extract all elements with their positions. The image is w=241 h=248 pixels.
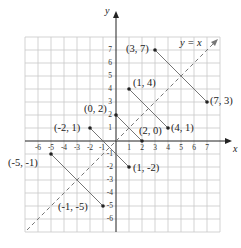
label-1-4: (1, 4) [133, 77, 156, 89]
y-axis-arrow-icon [113, 11, 119, 18]
point-3-7 [153, 48, 157, 52]
label-1-neg2: (1, -2) [133, 162, 160, 174]
label-7-3: (7, 3) [210, 95, 233, 107]
y-tick-labels: 7 6 5 4 3 2 1 -1 -2 -3 -4 -5 -6 [107, 45, 113, 223]
label-2-0: (2, 0) [139, 125, 162, 137]
svg-text:2: 2 [108, 110, 112, 119]
svg-text:-4: -4 [61, 143, 67, 152]
svg-text:4: 4 [108, 84, 112, 93]
svg-text:7: 7 [108, 45, 112, 54]
svg-text:5: 5 [108, 71, 112, 80]
svg-text:-2: -2 [107, 162, 113, 171]
svg-text:4: 4 [166, 143, 170, 152]
svg-text:1: 1 [108, 123, 112, 132]
label-3-7: (3, 7) [126, 43, 149, 55]
point-0-2 [114, 113, 118, 117]
point-neg2-1 [88, 126, 92, 130]
coordinate-plane: x y -6 -5 -4 -3 -2 -1 1 2 3 4 5 6 7 7 6 … [0, 0, 241, 248]
line-y-equals-x [27, 43, 214, 230]
svg-text:-2: -2 [87, 143, 93, 152]
svg-text:5: 5 [179, 143, 183, 152]
x-tick-labels: -6 -5 -4 -3 -2 -1 1 2 3 4 5 6 7 [35, 143, 209, 152]
svg-text:7: 7 [205, 143, 209, 152]
svg-text:3: 3 [108, 97, 112, 106]
svg-text:-6: -6 [107, 214, 113, 223]
svg-text:-6: -6 [35, 143, 41, 152]
x-axis-arrow-icon [225, 138, 232, 144]
point-7-3 [205, 100, 209, 104]
label-4-1: (4, 1) [171, 122, 194, 134]
label-neg1-neg5: (-1, -5) [58, 201, 88, 213]
svg-text:-3: -3 [74, 143, 80, 152]
svg-text:1: 1 [127, 143, 131, 152]
svg-text:-5: -5 [107, 201, 113, 210]
label-0-2: (0, 2) [84, 103, 107, 115]
point-1-4 [127, 87, 131, 91]
point-neg1-neg5 [101, 204, 105, 208]
svg-text:-4: -4 [107, 188, 113, 197]
label-neg5-neg1: (-5, -1) [8, 157, 38, 169]
svg-text:6: 6 [192, 143, 196, 152]
y-axis-label: y [104, 5, 110, 16]
point-2-0 [140, 139, 144, 143]
line-label: y = x [179, 37, 202, 48]
svg-text:3: 3 [153, 143, 157, 152]
point-4-1 [166, 126, 170, 130]
x-axis-label: x [232, 143, 238, 154]
svg-text:-1: -1 [99, 143, 105, 152]
svg-text:2: 2 [140, 143, 144, 152]
svg-text:6: 6 [108, 58, 112, 67]
svg-text:-5: -5 [48, 143, 54, 152]
svg-text:-3: -3 [107, 175, 113, 184]
label-neg2-1: (-2, 1) [54, 122, 81, 134]
point-neg5-neg1 [49, 152, 53, 156]
point-1-neg2 [127, 165, 131, 169]
